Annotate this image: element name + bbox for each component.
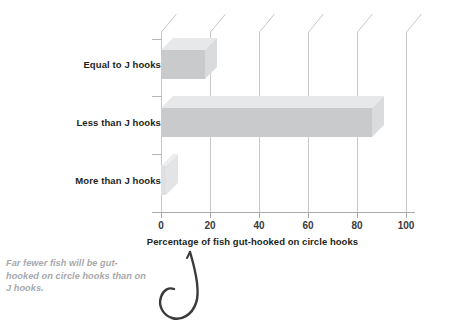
x-axis-title-text: Percentage of fish gut-hooked on circle … bbox=[147, 236, 358, 247]
chart-text-layer: Equal to J hooks Less than J hooks More … bbox=[0, 0, 449, 260]
xtick-label-1: 20 bbox=[195, 220, 225, 232]
category-label-0: Equal to J hooks bbox=[83, 59, 161, 70]
circle-fish-hook-icon bbox=[160, 252, 197, 319]
caption-text: Far fewer fish will be gut-hooked on cir… bbox=[6, 257, 146, 295]
xtick-label-0: 0 bbox=[146, 220, 176, 232]
category-label-2: More than J hooks bbox=[75, 175, 161, 186]
xtick-label-3: 60 bbox=[293, 220, 323, 232]
xtick-label-5: 100 bbox=[391, 220, 421, 232]
xtick-label-2: 40 bbox=[244, 220, 274, 232]
category-label-1: Less than J hooks bbox=[76, 117, 161, 128]
x-axis-title: Percentage of fish gut-hooked on circle … bbox=[0, 236, 449, 247]
xtick-label-4: 80 bbox=[342, 220, 372, 232]
figure-gut-hooked-chart: Equal to J hooks Less than J hooks More … bbox=[0, 0, 449, 334]
